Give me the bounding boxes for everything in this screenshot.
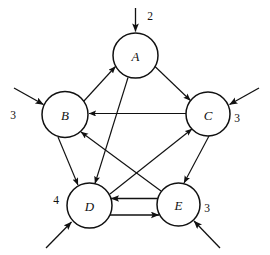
- node-c[interactable]: C: [186, 92, 230, 136]
- node-b-label: B: [61, 108, 69, 123]
- node-e[interactable]: E: [157, 183, 200, 226]
- external-arrow-into-e: [194, 221, 220, 248]
- edge-a-to-d: [95, 78, 128, 184]
- node-d[interactable]: D: [67, 183, 112, 228]
- node-a-label: A: [131, 49, 140, 64]
- node-d-label: D: [84, 199, 95, 214]
- flow-label-b: 3: [10, 109, 16, 121]
- flow-label-a: 2: [147, 10, 153, 22]
- node-b[interactable]: B: [42, 92, 88, 138]
- node-c-label: C: [204, 108, 213, 123]
- edge-e-to-b: [81, 132, 161, 191]
- flow-label-d: 4: [53, 194, 59, 206]
- edge-b-to-a: [84, 67, 116, 102]
- edge-c-to-e: [184, 136, 209, 183]
- external-arrow-into-c: [230, 88, 260, 105]
- graph-canvas: A B C D E 2 3 3 4 3: [0, 0, 270, 255]
- external-arrow-into-d: [46, 222, 72, 248]
- node-e-label: E: [174, 198, 183, 213]
- edge-b-to-d: [58, 137, 78, 185]
- graph-diagram: A B C D E 2 3 3 4 3: [0, 0, 270, 255]
- node-a[interactable]: A: [113, 33, 158, 78]
- flow-label-e: 3: [204, 202, 210, 214]
- edge-a-to-c: [155, 67, 191, 101]
- flow-label-c: 3: [234, 112, 240, 124]
- external-arrow-into-b: [14, 88, 44, 105]
